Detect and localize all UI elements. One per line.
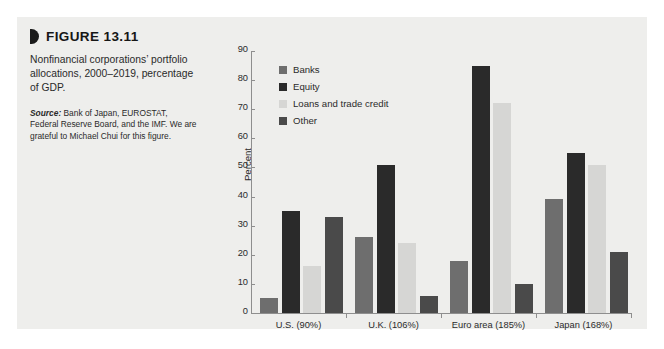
y-tick-label: 90	[238, 44, 248, 54]
figure-heading: FIGURE 13.11	[30, 29, 198, 44]
bar[interactable]	[567, 153, 585, 313]
bar[interactable]	[610, 252, 628, 313]
x-axis-label: U.S. (90%)	[251, 320, 346, 330]
x-axis-label: U.K. (106%)	[346, 320, 441, 330]
bar[interactable]	[472, 66, 490, 313]
x-axis-label: Japan (168%)	[536, 320, 631, 330]
y-tick: 20	[213, 255, 255, 256]
y-tick: 90	[213, 51, 255, 52]
bar-group	[355, 51, 438, 313]
bar-group	[260, 51, 343, 313]
bar[interactable]	[260, 298, 278, 313]
x-tick-mark	[631, 313, 632, 318]
bar[interactable]	[493, 103, 511, 313]
y-tick-label: 30	[238, 219, 248, 229]
y-tick-label: 40	[238, 190, 248, 200]
bar[interactable]	[325, 217, 343, 313]
source-label: Source:	[30, 108, 61, 118]
y-tick: 70	[213, 109, 255, 110]
figure-caption: Nonfinancial corporations’ portfolio all…	[30, 53, 198, 96]
figure-panel: FIGURE 13.11 Nonfinancial corporations’ …	[17, 17, 647, 329]
y-tick: 10	[213, 284, 255, 285]
bar[interactable]	[420, 296, 438, 313]
x-tick-mark	[536, 313, 537, 318]
figure-number-label: FIGURE 13.11	[46, 29, 139, 44]
y-tick-label: 50	[238, 160, 248, 170]
bar[interactable]	[515, 284, 533, 313]
figure-source: Source: Bank of Japan, EUROSTAT, Federal…	[30, 108, 198, 143]
bar[interactable]	[282, 211, 300, 313]
bar-group	[450, 51, 533, 313]
bar[interactable]	[545, 199, 563, 313]
y-tick-label: 0	[243, 306, 248, 316]
y-tick: 80	[213, 80, 255, 81]
y-tick: 40	[213, 197, 255, 198]
y-tick: 0	[213, 313, 255, 314]
caption-column: FIGURE 13.11 Nonfinancial corporations’ …	[30, 29, 198, 142]
figure-bullet-icon	[30, 29, 39, 44]
x-axis-label: Euro area (185%)	[441, 320, 536, 330]
y-tick-label: 20	[238, 248, 248, 258]
y-tick-label: 10	[238, 277, 248, 287]
y-tick: 60	[213, 138, 255, 139]
y-tick-label: 60	[238, 131, 248, 141]
x-tick-mark	[346, 313, 347, 318]
bar[interactable]	[398, 243, 416, 313]
bar[interactable]	[450, 261, 468, 313]
y-tick-mark	[251, 313, 255, 314]
bar[interactable]	[355, 237, 373, 313]
bar[interactable]	[303, 266, 321, 313]
x-tick-mark	[441, 313, 442, 318]
bar-group	[545, 51, 628, 313]
y-tick-label: 80	[238, 73, 248, 83]
chart-plot-area: Percent 0102030405060708090 BanksEquityL…	[213, 31, 637, 327]
bar[interactable]	[377, 165, 395, 313]
bars-layer	[251, 51, 631, 313]
y-tick: 30	[213, 226, 255, 227]
y-tick-label: 70	[238, 102, 248, 112]
bar[interactable]	[588, 165, 606, 313]
y-tick: 50	[213, 167, 255, 168]
